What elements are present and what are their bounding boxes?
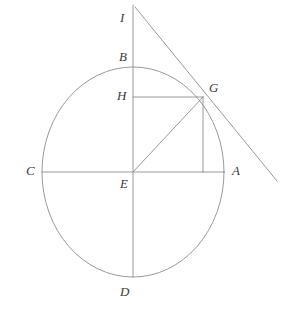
point-label-d: D bbox=[120, 285, 129, 298]
point-label-c: C bbox=[26, 164, 35, 177]
point-label-h: H bbox=[117, 89, 126, 102]
geometry-figure: IBHGCEAD bbox=[0, 0, 290, 312]
segment-IG-tangent bbox=[135, 7, 277, 181]
point-label-i: I bbox=[120, 11, 124, 24]
point-label-a: A bbox=[232, 164, 240, 177]
point-label-e: E bbox=[120, 177, 128, 190]
point-label-g: G bbox=[209, 81, 218, 94]
point-label-b: B bbox=[119, 50, 127, 63]
segment-EG-radius bbox=[133, 97, 203, 172]
geometry-canvas bbox=[0, 0, 290, 312]
